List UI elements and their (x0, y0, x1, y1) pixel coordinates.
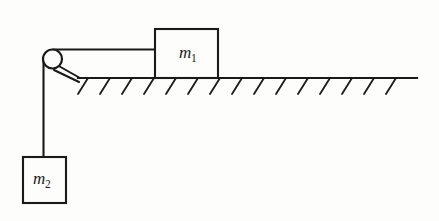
ground-hatching-group (78, 78, 396, 94)
ground-hatch-mark (210, 78, 220, 94)
ground-hatch-mark (298, 78, 308, 94)
ground-hatch-mark (254, 78, 264, 94)
ground-hatch-mark (100, 78, 110, 94)
ground-hatch-mark (232, 78, 242, 94)
block-m1-label: m (179, 43, 191, 62)
ground-hatch-mark (144, 78, 154, 94)
ground-hatch-mark (386, 78, 396, 94)
ground-hatch-mark (122, 78, 132, 94)
ground-hatch-mark (320, 78, 330, 94)
pulley-system-figure: m 1 m 2 (0, 0, 439, 221)
pulley-wheel-icon (43, 50, 62, 69)
block-m1-subscript: 1 (191, 52, 197, 64)
diagram-canvas: m 1 m 2 (0, 0, 439, 221)
ground-hatch-mark (364, 78, 374, 94)
ground-hatch-mark (188, 78, 198, 94)
block-m2-subscript: 2 (45, 178, 51, 190)
ground-hatch-mark (276, 78, 286, 94)
ground-hatch-mark (342, 78, 352, 94)
ground-hatch-mark (166, 78, 176, 94)
ground-hatch-mark (78, 78, 88, 94)
block-m2-label: m (33, 169, 45, 188)
